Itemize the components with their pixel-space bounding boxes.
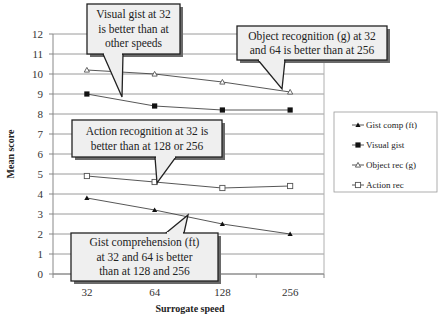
legend-marker-icon bbox=[355, 182, 360, 187]
y-tick-label: 10 bbox=[32, 68, 44, 80]
data-point-marker bbox=[84, 91, 89, 96]
data-point-marker bbox=[288, 183, 293, 188]
y-tick-label: 2 bbox=[38, 228, 44, 240]
x-tick-label: 256 bbox=[282, 286, 299, 298]
x-tick-label: 128 bbox=[214, 286, 231, 298]
callout-text-line: better than at 128 or 256 bbox=[91, 140, 204, 152]
y-tick-label: 12 bbox=[32, 28, 43, 40]
callout-pointer bbox=[166, 215, 188, 233]
callout-pointer bbox=[155, 157, 176, 183]
y-tick-label: 3 bbox=[38, 208, 44, 220]
y-tick-label: 9 bbox=[38, 88, 44, 100]
legend-label: Gist comp (ft) bbox=[366, 120, 417, 130]
callout-gist: Gist comprehension (ft)at 32 and 64 is b… bbox=[71, 215, 221, 284]
line-chart: 0123456789101112 3264128256 Visual gist … bbox=[0, 0, 443, 328]
data-point-marker bbox=[288, 107, 293, 112]
callout-text-line: at 32 and 64 is better bbox=[96, 251, 192, 263]
y-tick-label: 7 bbox=[38, 128, 44, 140]
callout-text-line: Visual gist at 32 bbox=[96, 8, 171, 21]
data-point-marker bbox=[152, 103, 157, 108]
legend: Gist comp (ft)Visual gistObject rec (g)A… bbox=[334, 112, 437, 192]
legend-label: Object rec (g) bbox=[366, 160, 416, 170]
x-tick-label: 32 bbox=[81, 286, 92, 298]
series-visual-gist bbox=[84, 91, 292, 112]
callout-visual: Visual gist at 32is better than atother … bbox=[87, 4, 183, 97]
callout-object: Object recognition (g) at 32and 64 is be… bbox=[237, 26, 390, 89]
y-tick-label: 6 bbox=[38, 148, 44, 160]
data-point-marker bbox=[220, 107, 225, 112]
y-tick-label: 5 bbox=[38, 168, 44, 180]
callout-text-line: Action recognition at 32 is bbox=[86, 125, 209, 138]
y-tick-label: 8 bbox=[38, 108, 44, 120]
x-tick-label: 64 bbox=[149, 286, 161, 298]
y-axis-title: Mean score bbox=[5, 129, 16, 179]
callout-text-line: other speeds bbox=[105, 37, 163, 50]
series-line bbox=[87, 198, 290, 234]
series-action-rec bbox=[84, 173, 292, 190]
legend-label: Action rec bbox=[366, 180, 404, 190]
legend-label: Visual gist bbox=[366, 140, 405, 150]
callout-text-line: Gist comprehension (ft) bbox=[90, 236, 200, 249]
data-point-marker bbox=[84, 195, 89, 200]
series-line bbox=[87, 94, 290, 110]
y-tick-label: 1 bbox=[38, 248, 44, 260]
y-tick-label: 11 bbox=[32, 48, 43, 60]
callout-text-line: Object recognition (g) at 32 bbox=[248, 30, 376, 43]
callout-text-line: than at 128 and 256 bbox=[99, 265, 190, 277]
data-point-marker bbox=[220, 185, 225, 190]
y-axis: 0123456789101112 bbox=[32, 28, 53, 280]
series-line bbox=[87, 176, 290, 188]
y-tick-label: 4 bbox=[38, 188, 44, 200]
legend-marker-icon bbox=[355, 142, 360, 147]
data-point-marker bbox=[84, 173, 89, 178]
callout-text-line: is better than at bbox=[98, 23, 169, 35]
callout-text-line: and 64 is better than at 256 bbox=[250, 44, 375, 56]
y-tick-label: 0 bbox=[38, 268, 44, 280]
callout-pointer bbox=[103, 54, 123, 97]
x-axis-title: Surrogate speed bbox=[156, 303, 225, 314]
